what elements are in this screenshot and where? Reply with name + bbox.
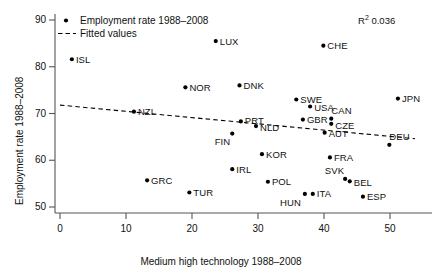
- point-label-grc: GRC: [151, 176, 172, 186]
- data-point-deu: [387, 143, 391, 147]
- data-point-usa: [308, 104, 312, 108]
- r-squared-exponent: 2: [365, 14, 369, 21]
- data-point-lux: [214, 39, 218, 43]
- x-tick-label-20: 20: [180, 224, 204, 234]
- point-label-kor: KOR: [266, 150, 287, 160]
- point-label-pol: POL: [272, 177, 291, 187]
- r-squared-value: 0.036: [371, 15, 395, 26]
- data-points-group: [70, 39, 400, 199]
- data-point-grc: [145, 178, 149, 182]
- data-point-che: [321, 44, 325, 48]
- point-label-can: CAN: [331, 106, 351, 116]
- data-point-jpn: [396, 96, 400, 100]
- point-label-bel: BEL: [354, 178, 372, 188]
- data-point-prt: [239, 119, 243, 123]
- data-point-hun: [303, 192, 307, 196]
- data-point-fra: [328, 155, 332, 159]
- r-squared-base: R: [358, 15, 365, 26]
- x-tick-label-30: 30: [246, 224, 270, 234]
- data-point-gbr: [301, 117, 305, 121]
- legend-dot-icon: [64, 18, 68, 22]
- y-tick-label-90: 90: [28, 15, 46, 25]
- data-point-ita: [311, 192, 315, 196]
- point-label-lux: LUX: [220, 37, 239, 47]
- data-point-isl: [70, 57, 74, 61]
- x-axis-title: Medium high technology 1988–2008: [0, 256, 442, 267]
- data-point-nor: [183, 85, 187, 89]
- data-point-svk: [343, 177, 347, 181]
- data-point-kor: [260, 152, 264, 156]
- y-axis-ticks: [49, 20, 55, 207]
- fitted-values-path: [60, 105, 415, 139]
- y-tick-label-60: 60: [28, 155, 46, 165]
- point-label-nld: NLD: [260, 123, 279, 133]
- data-point-can: [329, 117, 333, 121]
- data-point-tur: [187, 190, 191, 194]
- point-label-dnk: DNK: [244, 81, 264, 91]
- data-point-nzl: [132, 110, 136, 114]
- point-label-isl: ISL: [76, 55, 91, 65]
- x-tick-label-50: 50: [378, 224, 402, 234]
- point-label-irl: IRL: [236, 165, 251, 175]
- legend-markers: [58, 18, 76, 33]
- scatter-plot-figure: Employment rate 1988–2008 Fitted values …: [0, 0, 442, 277]
- data-point-pol: [266, 180, 270, 184]
- point-label-gbr: GBR: [307, 115, 328, 125]
- y-tick-label-50: 50: [28, 202, 46, 212]
- data-point-fin: [230, 132, 234, 136]
- x-axis-ticks: [60, 213, 390, 219]
- data-point-irl: [230, 167, 234, 171]
- point-label-fra: FRA: [334, 153, 353, 163]
- point-label-deu: DEU: [389, 132, 409, 142]
- point-label-svk: SVK: [325, 166, 344, 176]
- r-squared-annotation: R2 0.036: [358, 14, 395, 26]
- x-tick-label-40: 40: [312, 224, 336, 234]
- data-point-bel: [348, 179, 352, 183]
- point-label-hun: HUN: [280, 198, 301, 208]
- point-label-jpn: JPN: [402, 94, 420, 104]
- point-label-esp: ESP: [367, 192, 386, 202]
- point-label-nzl: NZL: [138, 107, 156, 117]
- point-label-tur: TUR: [193, 188, 213, 198]
- plot-axes: [49, 14, 432, 219]
- legend-label-fitted-values: Fitted values: [80, 29, 137, 39]
- y-tick-label-80: 80: [28, 62, 46, 72]
- point-label-fin: FIN: [215, 137, 231, 147]
- x-tick-label-10: 10: [114, 224, 138, 234]
- point-label-aut: AUT: [329, 129, 348, 139]
- point-label-nor: NOR: [189, 83, 210, 93]
- data-point-esp: [361, 195, 365, 199]
- data-point-cze: [329, 122, 333, 126]
- legend-label-employment-rate: Employment rate 1988–2008: [80, 16, 208, 26]
- y-axis-title: Employment rate 1988–2008: [14, 77, 25, 205]
- point-label-ita: ITA: [317, 189, 331, 199]
- fitted-values-line: [60, 105, 415, 139]
- point-label-che: CHE: [327, 41, 347, 51]
- data-point-swe: [294, 97, 298, 101]
- data-point-aut: [323, 131, 327, 135]
- data-point-dnk: [237, 83, 241, 87]
- x-tick-label-0: 0: [48, 224, 72, 234]
- y-tick-label-70: 70: [28, 109, 46, 119]
